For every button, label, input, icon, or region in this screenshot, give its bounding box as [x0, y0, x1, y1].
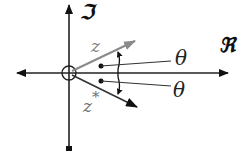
real-axis-label: ℜ: [219, 35, 235, 55]
diagram-canvas: [0, 0, 246, 151]
imaginary-axis-label: ℑ: [80, 2, 94, 22]
z-conjugate-base: z: [83, 96, 92, 116]
conjugate-superscript: *: [92, 88, 100, 106]
imaginary-axis: [66, 5, 72, 151]
z-vector: [72, 41, 135, 71]
z-label: z: [91, 38, 100, 55]
complex-plane-diagram: ℑ ℜ z z* θ θ: [0, 0, 246, 151]
z-conjugate-vector: [72, 75, 137, 107]
theta-label-upper: θ: [175, 48, 187, 68]
theta-label-lower: θ: [173, 80, 185, 100]
theta-leader-upper: [99, 61, 172, 69]
axis-end-cap: [66, 146, 72, 151]
z-conjugate-label: z*: [83, 93, 99, 115]
theta-leader-lower: [99, 79, 172, 87]
